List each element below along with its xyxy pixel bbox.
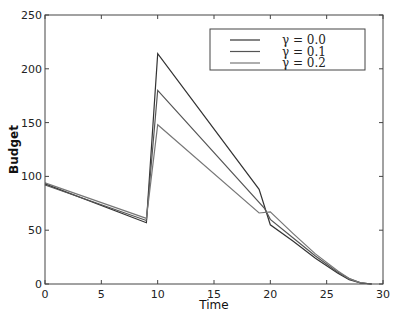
legend-entry: γ = 0.2	[282, 56, 326, 70]
x-tick-label: 25	[320, 288, 334, 301]
y-tick-label: 250	[21, 9, 42, 22]
chart: 051015202530050100150200250TimeBudgetγ =…	[0, 0, 401, 313]
y-tick-label: 100	[21, 170, 42, 183]
x-tick-label: 30	[376, 288, 390, 301]
y-tick-label: 150	[21, 117, 42, 130]
series-line-2	[45, 125, 372, 284]
y-tick-label: 200	[21, 63, 42, 76]
series-line-1	[45, 90, 372, 284]
y-axis-label: Budget	[7, 125, 21, 174]
x-tick-label: 5	[98, 288, 105, 301]
x-tick-label: 10	[151, 288, 165, 301]
line-chart: 051015202530050100150200250TimeBudgetγ =…	[0, 0, 401, 313]
x-tick-label: 0	[42, 288, 49, 301]
y-tick-label: 50	[28, 224, 42, 237]
x-tick-label: 20	[263, 288, 277, 301]
x-axis-label: Time	[198, 298, 228, 312]
y-tick-label: 0	[35, 278, 42, 291]
